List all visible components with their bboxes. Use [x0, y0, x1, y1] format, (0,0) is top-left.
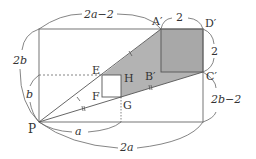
label-a: A′: [151, 15, 163, 28]
dim-left-outer: 2b: [12, 54, 27, 67]
label-e: E: [92, 64, 100, 77]
label-h: H: [124, 72, 134, 85]
dim-right-square: 2: [211, 45, 218, 58]
double-tick-pg-1: [82, 106, 83, 111]
arc-left-outer: [20, 29, 39, 122]
dim-right-lower: 2b−2: [210, 93, 241, 106]
dim-left-inner: b: [26, 88, 33, 101]
label-c: C′: [206, 70, 217, 83]
label-b: B′: [145, 70, 156, 83]
double-tick-pg-2: [84, 106, 85, 111]
geometry-figure: P A′ D′ C′ B′ E H F G 2a−2 2 2 2b−2 2b b…: [0, 0, 256, 159]
tick-mark-pe: [77, 97, 80, 101]
dim-top-square: 2: [176, 11, 183, 24]
dim-top: 2a−2: [83, 8, 114, 21]
label-g: G: [123, 99, 132, 112]
dim-bottom-outer: 2a: [119, 141, 134, 154]
dim-bottom-inner: a: [75, 125, 82, 138]
square-efgh: [102, 75, 121, 97]
square-abcd: [161, 29, 203, 72]
label-d: D′: [205, 17, 217, 30]
label-f: F: [92, 90, 100, 103]
label-p: P: [28, 122, 36, 136]
